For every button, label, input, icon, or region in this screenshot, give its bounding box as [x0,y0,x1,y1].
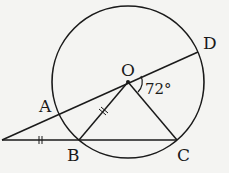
radius-ob [79,82,128,140]
label-d: D [203,33,217,53]
center-point-o [126,80,130,84]
geometry-diagram: O D A B C 72° [0,0,229,173]
label-o: O [121,60,135,80]
label-b: B [67,145,80,165]
angle-label: 72° [145,80,172,98]
label-a: A [38,96,52,116]
label-c: C [177,145,190,165]
